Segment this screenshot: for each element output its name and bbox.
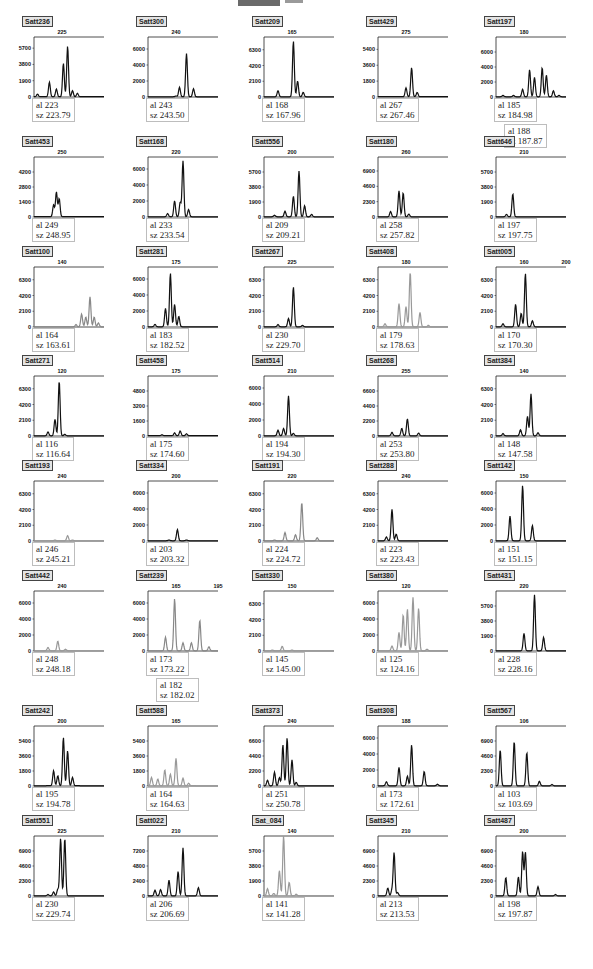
- electropherogram-plot: 2105700380019000: [470, 149, 580, 225]
- peak-trace: [148, 274, 218, 327]
- allele-size: sz 206.69: [150, 909, 185, 919]
- svg-text:4200: 4200: [249, 63, 261, 69]
- allele-call: al 194: [266, 439, 301, 449]
- allele-call: al 258: [380, 220, 415, 230]
- allele-callout: al 194sz 194.30: [262, 437, 305, 461]
- marker-label: Satt180: [366, 136, 397, 147]
- allele-size: sz 116.64: [36, 449, 70, 459]
- svg-text:4200: 4200: [249, 507, 261, 513]
- svg-text:6000: 6000: [133, 600, 145, 606]
- svg-text:165: 165: [171, 583, 180, 589]
- electropherogram-plot: 1656300420021000: [238, 29, 348, 105]
- allele-callout: al 151sz 151.15: [494, 542, 537, 566]
- svg-text:5400: 5400: [19, 738, 31, 744]
- svg-text:0: 0: [372, 433, 375, 439]
- allele-call: al 243: [150, 100, 185, 110]
- svg-text:6000: 6000: [249, 385, 261, 391]
- electropherogram-plot: 2504200280014000: [8, 149, 118, 225]
- svg-text:2300: 2300: [481, 878, 493, 884]
- svg-text:6300: 6300: [19, 386, 31, 392]
- svg-text:6300: 6300: [481, 277, 493, 283]
- svg-text:4000: 4000: [481, 64, 493, 70]
- electropherogram-plot: 2406300420021000: [352, 473, 462, 549]
- allele-size: sz 173.22: [150, 664, 185, 674]
- allele-size: sz 182.02: [160, 690, 195, 700]
- electropherogram-plot: 1886000400020000: [352, 718, 462, 794]
- marker-label: Satt429: [366, 16, 397, 27]
- electropherogram-plot: 2005400360018000: [8, 718, 118, 794]
- allele-call: al 230: [266, 330, 301, 340]
- allele-size: sz 248.18: [36, 664, 71, 674]
- allele-callout: al 249sz 248.95: [32, 218, 75, 242]
- cropped-caption-fragment: [285, 0, 303, 3]
- svg-text:140: 140: [57, 259, 66, 265]
- svg-text:0: 0: [490, 214, 493, 220]
- electropherogram-plot: 2005700380019000: [238, 149, 348, 225]
- svg-text:6000: 6000: [133, 490, 145, 496]
- svg-text:1800: 1800: [133, 768, 145, 774]
- allele-callout: al 170sz 170.30: [494, 328, 537, 352]
- svg-text:2300: 2300: [363, 878, 375, 884]
- marker-label: Satt168: [136, 136, 167, 147]
- peak-trace: [264, 504, 334, 541]
- svg-text:4000: 4000: [133, 616, 145, 622]
- svg-text:6900: 6900: [19, 848, 31, 854]
- marker-label: Satt191: [252, 460, 283, 471]
- svg-text:4600: 4600: [481, 863, 493, 869]
- svg-text:6000: 6000: [133, 166, 145, 172]
- marker-label: Satt308: [366, 705, 397, 716]
- svg-text:5700: 5700: [19, 45, 31, 51]
- svg-text:200: 200: [519, 828, 528, 834]
- svg-text:4000: 4000: [249, 401, 261, 407]
- svg-text:0: 0: [28, 94, 31, 100]
- allele-size: sz 167.96: [266, 110, 301, 120]
- svg-text:240: 240: [57, 583, 66, 589]
- svg-text:2200: 2200: [363, 418, 375, 424]
- svg-text:4600: 4600: [19, 863, 31, 869]
- electropherogram-plot: 2106000400020000: [238, 368, 348, 444]
- svg-text:150: 150: [519, 473, 528, 479]
- allele-callout: al 258sz 257.82: [376, 218, 419, 242]
- electropherogram-plot: 1506300420021000: [238, 583, 348, 659]
- svg-text:1800: 1800: [19, 768, 31, 774]
- svg-text:0: 0: [490, 648, 493, 654]
- allele-callout: al 233sz 233.54: [146, 218, 189, 242]
- allele-callout: al 148sz 147.58: [494, 437, 537, 461]
- electropherogram-plot: 1806300420021000: [352, 259, 462, 335]
- svg-text:2000: 2000: [363, 632, 375, 638]
- svg-text:210: 210: [171, 828, 180, 834]
- allele-size: sz 209.21: [266, 230, 301, 240]
- svg-text:2000: 2000: [481, 522, 493, 528]
- svg-text:4000: 4000: [19, 616, 31, 622]
- peak-trace: [148, 758, 218, 786]
- peak-trace: [264, 42, 334, 97]
- allele-callout: al 164sz 163.61: [32, 328, 75, 352]
- allele-call: al 151: [498, 544, 533, 554]
- peak-trace: [496, 274, 566, 327]
- peak-trace: [34, 641, 104, 650]
- allele-size: sz 223.43: [380, 554, 415, 564]
- svg-text:240: 240: [401, 473, 410, 479]
- svg-text:4000: 4000: [133, 182, 145, 188]
- electropherogram-plot: 1756000400020000: [122, 259, 232, 335]
- allele-call: al 230: [36, 899, 71, 909]
- svg-text:2000: 2000: [19, 632, 31, 638]
- allele-size: sz 170.30: [498, 340, 533, 350]
- allele-callout: al 173sz 172.61: [376, 787, 419, 811]
- allele-call: al 267: [380, 100, 415, 110]
- svg-text:3800: 3800: [19, 61, 31, 67]
- allele-call: al 195: [36, 789, 71, 799]
- svg-text:0: 0: [28, 538, 31, 544]
- allele-call: al 246: [36, 544, 71, 554]
- marker-label: Satt193: [22, 460, 53, 471]
- svg-text:1900: 1900: [19, 78, 31, 84]
- marker-label: Satt588: [136, 705, 167, 716]
- marker-label: Satt239: [136, 570, 167, 581]
- peak-trace: [148, 54, 218, 97]
- svg-text:2800: 2800: [19, 184, 31, 190]
- svg-text:0: 0: [142, 214, 145, 220]
- svg-text:240: 240: [57, 473, 66, 479]
- svg-text:4400: 4400: [363, 403, 375, 409]
- svg-text:260: 260: [401, 149, 410, 155]
- allele-size: sz 224.72: [266, 554, 301, 564]
